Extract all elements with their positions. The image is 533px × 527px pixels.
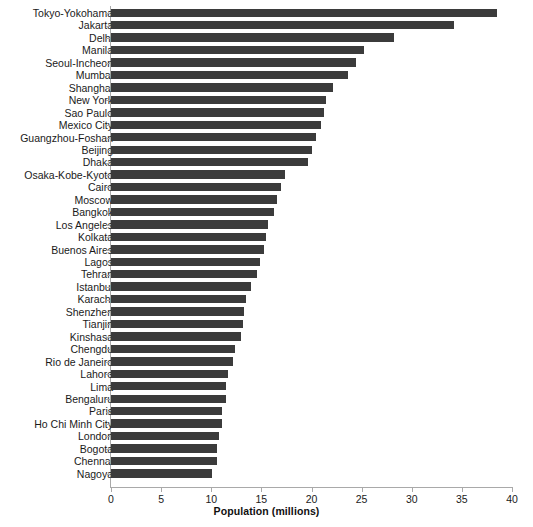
bar-category-label: Chengdu [0, 343, 113, 355]
bar-row: Shanghai [0, 82, 533, 94]
x-axis-tick-label: 40 [492, 493, 532, 505]
x-axis-tick-mark [261, 487, 262, 492]
bar-category-label: Nagoya [0, 468, 113, 480]
bar-category-label: Cairo [0, 181, 113, 193]
bar-row: Jakarta [0, 19, 533, 31]
bar-category-label: Lahore [0, 368, 113, 380]
y-axis-tick-mark [106, 262, 110, 263]
bar-row: Sao Paulo [0, 107, 533, 119]
x-axis-tick-label: 35 [442, 493, 482, 505]
bar [111, 320, 243, 328]
bar-row: Nagoya [0, 468, 533, 480]
y-axis-tick-mark [106, 374, 110, 375]
bar-category-label: Jakarta [0, 19, 113, 31]
y-axis-tick-mark [106, 275, 110, 276]
bar [111, 357, 233, 365]
y-axis-tick-mark [106, 187, 110, 188]
bar [111, 457, 217, 465]
bar-category-label: Bengaluru [0, 393, 113, 405]
bar [111, 245, 264, 253]
y-axis-tick-mark [106, 287, 110, 288]
bar [111, 258, 260, 266]
bar-category-label: Shanghai [0, 82, 113, 94]
bar-row: Chennai [0, 455, 533, 467]
x-axis-tick-mark [312, 487, 313, 492]
bar-row: New York [0, 94, 533, 106]
bar-category-label: Paris [0, 405, 113, 417]
y-axis-tick-mark [106, 212, 110, 213]
y-axis-tick-mark [106, 51, 110, 52]
bar-row: Bangkok [0, 206, 533, 218]
x-axis-tick-label: 0 [91, 493, 131, 505]
y-axis-tick-mark [106, 436, 110, 437]
bar [111, 21, 454, 29]
bar-category-label: Beijing [0, 144, 113, 156]
bar [111, 208, 274, 216]
bar-category-label: Tokyo-Yokohama [0, 7, 113, 19]
bar-row: Cairo [0, 181, 533, 193]
bar [111, 332, 241, 340]
bar-row: Delhi [0, 32, 533, 44]
y-axis-tick-mark [106, 237, 110, 238]
x-axis-tick-label: 30 [392, 493, 432, 505]
bar-row: Manila [0, 44, 533, 56]
bar-row: Buenos Aires [0, 244, 533, 256]
bar-category-label: Los Angeles [0, 219, 113, 231]
y-axis-tick-mark [106, 26, 110, 27]
bar-category-label: Ho Chi Minh City [0, 418, 113, 430]
x-axis-tick-label: 20 [292, 493, 332, 505]
bar [111, 233, 266, 241]
bar-row: Beijing [0, 144, 533, 156]
y-axis-tick-mark [106, 474, 110, 475]
bar-row: Istanbul [0, 281, 533, 293]
y-axis-tick-mark [106, 88, 110, 89]
x-axis-tick-label: 5 [141, 493, 181, 505]
bar-row: Los Angeles [0, 219, 533, 231]
y-axis-tick-mark [106, 461, 110, 462]
bar-row: Rio de Janeiro [0, 356, 533, 368]
bar [111, 282, 251, 290]
bar-category-label: Kinshasa [0, 331, 113, 343]
bar-category-label: Shenzhen [0, 306, 113, 318]
bar-row: Kinshasa [0, 331, 533, 343]
y-axis-tick-mark [106, 125, 110, 126]
bar-row: Tianjin [0, 318, 533, 330]
bar-row: Kolkata [0, 231, 533, 243]
bar [111, 33, 394, 41]
y-axis-tick-mark [106, 63, 110, 64]
bar-category-label: Kolkata [0, 231, 113, 243]
y-axis-tick-mark [106, 387, 110, 388]
bar [111, 432, 219, 440]
bar [111, 345, 235, 353]
bar-row: Bengaluru [0, 393, 533, 405]
y-axis-tick-mark [106, 100, 110, 101]
bar [111, 146, 312, 154]
bar [111, 96, 326, 104]
y-axis-tick-mark [106, 138, 110, 139]
bar-row: Moscow [0, 194, 533, 206]
bar-row: Mexico City [0, 119, 533, 131]
bar-category-label: Moscow [0, 194, 113, 206]
bar-row: Dhaka [0, 156, 533, 168]
bar [111, 158, 308, 166]
x-axis-tick-mark [211, 487, 212, 492]
bar-row: Tokyo-Yokohama [0, 7, 533, 19]
y-axis-tick-mark [106, 449, 110, 450]
bar-category-label: Osaka-Kobe-Kyoto [0, 169, 113, 181]
bar-category-label: Chennai [0, 455, 113, 467]
bar [111, 46, 364, 54]
y-axis-tick-mark [106, 75, 110, 76]
bar-row: Lahore [0, 368, 533, 380]
bar [111, 382, 226, 390]
population-bar-chart: Tokyo-YokohamaJakartaDelhiManilaSeoul-In… [0, 0, 533, 527]
bar-category-label: Sao Paulo [0, 107, 113, 119]
x-axis-tick-mark [412, 487, 413, 492]
bar [111, 58, 356, 66]
x-axis-tick-mark [512, 487, 513, 492]
y-axis-tick-mark [106, 362, 110, 363]
x-axis-ticks: 0510152025303540 [0, 487, 533, 507]
bar [111, 71, 348, 79]
bar [111, 183, 281, 191]
bar-category-label: Delhi [0, 32, 113, 44]
x-axis-tick-mark [362, 487, 363, 492]
